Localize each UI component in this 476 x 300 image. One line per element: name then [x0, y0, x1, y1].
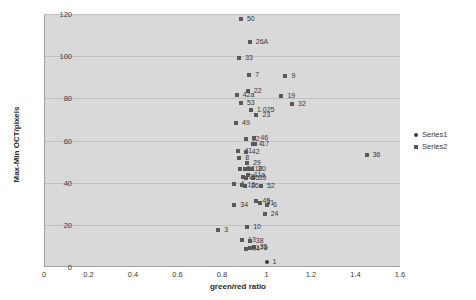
data-point-label: 23: [262, 111, 270, 119]
data-point-marker-icon: [237, 56, 241, 60]
legend-marker-series2-icon: [414, 145, 418, 149]
data-point-marker-icon: [258, 201, 262, 205]
y-axis-label: Max-Min OCT/pixels: [12, 75, 21, 215]
data-point-marker-icon: [247, 73, 251, 77]
x-axis-tick: 0.8: [207, 270, 237, 279]
data-point-marker-icon: [238, 167, 242, 171]
y-axis-tick: 100: [42, 52, 72, 61]
data-point-label: 39: [259, 174, 267, 182]
data-point-marker-icon: [252, 136, 256, 140]
data-point-marker-icon: [240, 238, 244, 242]
data-point-label: 52: [267, 182, 275, 190]
x-axis-tick: 1.4: [341, 270, 371, 279]
y-axis-tick: 20: [42, 220, 72, 229]
x-axis-tick: 0.6: [163, 270, 193, 279]
x-axis-tick: 1.6: [385, 270, 415, 279]
y-axis-tick: 40: [42, 178, 72, 187]
y-axis-tick: 60: [42, 136, 72, 145]
x-axis-tick: 1: [252, 270, 282, 279]
data-point-marker-icon: [249, 108, 253, 112]
data-point-label: 24: [271, 210, 279, 218]
data-point-marker-icon: [245, 225, 249, 229]
gridline: [45, 183, 400, 184]
data-point-marker-icon: [232, 203, 236, 207]
data-point-label: 4: [259, 140, 263, 148]
data-point-marker-icon: [244, 137, 248, 141]
data-point-marker-icon: [239, 101, 243, 105]
data-point-marker-icon: [244, 247, 248, 251]
legend-item-series1[interactable]: Series1: [414, 130, 447, 139]
data-point-marker-icon: [248, 40, 252, 44]
data-point-marker-icon: [265, 203, 269, 207]
data-point-marker-icon: [279, 94, 283, 98]
data-point-marker-icon: [263, 212, 267, 216]
legend-marker-series1-icon: [414, 133, 418, 137]
x-axis-label: green/red ratio: [0, 282, 476, 291]
data-point-marker-icon: [236, 149, 240, 153]
data-point-marker-icon: [290, 102, 294, 106]
data-point-label: 6: [273, 201, 277, 209]
data-point-label: 10: [253, 223, 261, 231]
data-point-marker-icon: [254, 113, 258, 117]
legend-label-series2: Series2: [422, 142, 447, 151]
legend-label-series1: Series1: [422, 130, 447, 139]
data-point-label: 19: [287, 92, 295, 100]
data-point-marker-icon: [239, 17, 243, 21]
data-point-label: 42: [252, 148, 260, 156]
y-axis-tick: 80: [42, 94, 72, 103]
plot-area: [44, 14, 400, 267]
data-point-label: 33: [245, 54, 253, 62]
data-point-label: 26: [251, 182, 259, 190]
data-point-marker-icon: [248, 239, 252, 243]
chart-legend: Series1 Series2: [414, 130, 447, 154]
data-point-marker-icon: [234, 121, 238, 125]
scatter-chart: Max-Min OCT/pixels green/red ratio Serie…: [0, 0, 476, 300]
x-axis-tick: 0.2: [74, 270, 104, 279]
data-point-marker-icon: [235, 93, 239, 97]
x-axis-tick: 0.4: [118, 270, 148, 279]
data-point-label: 49: [242, 119, 250, 127]
data-point-marker-icon: [265, 260, 269, 264]
data-point-label: 53: [247, 99, 255, 107]
data-point-label: 32: [298, 100, 306, 108]
y-axis-tick: 120: [42, 10, 72, 19]
data-point-marker-icon: [237, 156, 241, 160]
gridline: [45, 141, 400, 142]
data-point-marker-icon: [283, 74, 287, 78]
data-point-label: 22: [254, 87, 262, 95]
gridline: [45, 225, 400, 226]
data-point-label: 1: [273, 258, 277, 266]
x-axis-tick: 0: [29, 270, 59, 279]
gridline: [45, 56, 400, 57]
data-point-marker-icon: [251, 142, 255, 146]
data-point-marker-icon: [259, 184, 263, 188]
data-point-marker-icon: [216, 228, 220, 232]
data-point-marker-icon: [243, 184, 247, 188]
data-point-marker-icon: [232, 182, 236, 186]
data-point-label: 26A: [256, 38, 268, 46]
gridline: [45, 14, 400, 15]
data-point-label: 35: [260, 243, 268, 251]
data-point-label: 34: [240, 201, 248, 209]
data-point-label: 7: [255, 71, 259, 79]
data-point-label: 9: [291, 72, 295, 80]
gridline: [45, 98, 400, 99]
data-point-label: 44: [252, 245, 260, 253]
data-point-label: 36: [373, 151, 381, 159]
data-point-label: 50: [247, 15, 255, 23]
x-axis-tick: 1.2: [296, 270, 326, 279]
data-point-marker-icon: [365, 153, 369, 157]
data-point-label: 3: [224, 226, 228, 234]
legend-item-series2[interactable]: Series2: [414, 142, 447, 151]
